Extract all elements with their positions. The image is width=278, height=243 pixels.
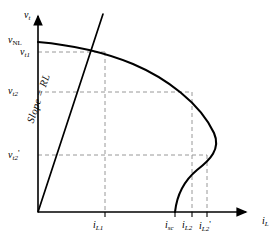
x-tick-label-il1-sub: L1 [96, 224, 103, 232]
iv-characteristic-figure: vt iL vNL vt1 vt2 vt2' iL1 isc iL2 iL2' … [0, 0, 278, 243]
plot-canvas [0, 0, 278, 243]
y-axis-label-sub: t [28, 14, 30, 22]
x-tick-label-il2-sub: L2 [185, 224, 192, 232]
source-characteristic-curve [38, 42, 216, 212]
x-tick-label-isc-sub: sc [168, 224, 174, 232]
y-tick-label-vt2-prime: vt2' [8, 149, 20, 162]
y-tick-label-vt2-sub: t2 [12, 90, 17, 98]
y-axis-label: vt [24, 10, 30, 22]
x-axis-label-sub: L [265, 220, 269, 228]
x-tick-label-il2-prime: iL2' [199, 220, 211, 233]
y-tick-label-vt1-sub: t1 [24, 51, 29, 59]
y-tick-label-vt2-prime-mark: ' [18, 148, 20, 158]
x-tick-label-il2: iL2 [182, 220, 192, 232]
x-tick-label-isc: isc [165, 220, 174, 232]
y-tick-label-vt1: vt1 [20, 47, 30, 59]
x-axis-label: iL [262, 216, 269, 228]
x-tick-label-il2-prime-mark: ' [209, 219, 211, 229]
y-tick-label-vt2: vt2 [8, 86, 18, 98]
x-tick-label-il1: iL1 [93, 220, 103, 232]
